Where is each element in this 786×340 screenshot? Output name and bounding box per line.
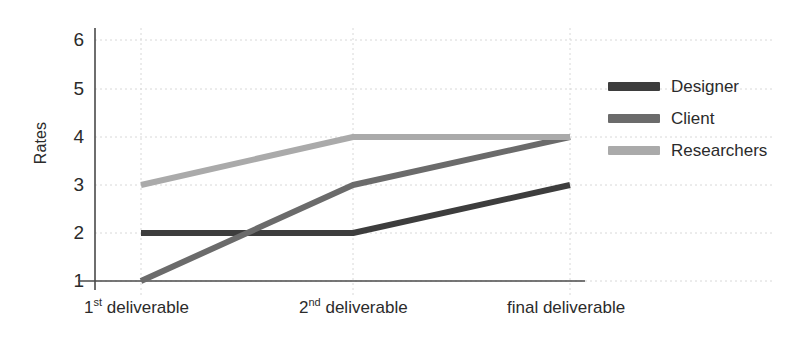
x-tick-word: deliverable <box>538 298 625 317</box>
series-line-client <box>141 137 570 281</box>
x-tick-label-1st-deliverable: 1st deliverable <box>84 299 189 316</box>
legend-label: Designer <box>671 78 739 95</box>
x-tick-number: final <box>507 298 538 317</box>
legend-item-client[interactable]: Client <box>608 102 778 134</box>
legend-item-researchers[interactable]: Researchers <box>608 134 778 166</box>
series-line-designer <box>141 185 570 233</box>
plot-area <box>0 0 786 340</box>
legend-swatch-icon <box>608 146 660 155</box>
x-tick-label-2nd-deliverable: 2nd deliverable <box>299 299 408 316</box>
x-tick-ordinal-suffix: st <box>93 296 102 308</box>
legend: Designer Client Researchers <box>608 70 778 166</box>
legend-swatch-icon <box>608 114 660 123</box>
series-line-researchers <box>141 137 570 185</box>
legend-label: Client <box>671 110 714 127</box>
x-tick-word: deliverable <box>321 298 408 317</box>
legend-item-designer[interactable]: Designer <box>608 70 778 102</box>
x-tick-label-final-deliverable: final deliverable <box>507 299 625 316</box>
legend-swatch-icon <box>608 82 660 91</box>
line-chart: Rates 6 5 4 3 2 1 1st deliverable 2nd de… <box>0 0 786 340</box>
x-tick-word: deliverable <box>102 298 189 317</box>
axis-lines <box>78 28 585 290</box>
data-series-group <box>141 137 570 281</box>
legend-label: Researchers <box>671 142 767 159</box>
x-tick-ordinal-suffix: nd <box>308 296 320 308</box>
